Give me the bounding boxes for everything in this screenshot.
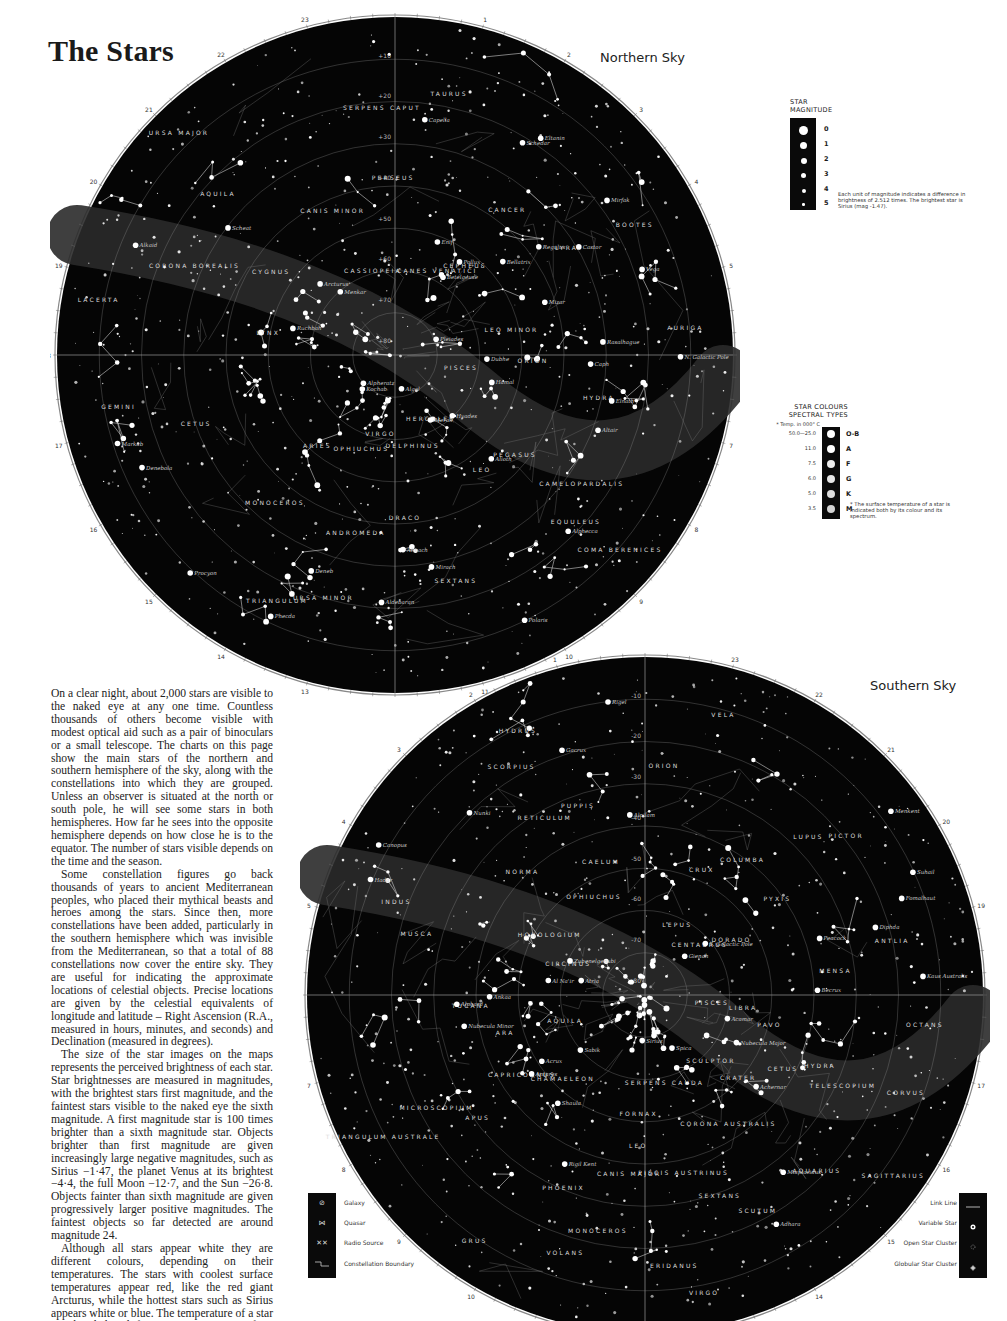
svg-text:PAVO: PAVO bbox=[757, 1021, 781, 1028]
svg-text:5: 5 bbox=[307, 902, 311, 909]
svg-text:+20: +20 bbox=[378, 92, 391, 99]
svg-text:HYDRUS: HYDRUS bbox=[499, 727, 537, 734]
variable-star-icon bbox=[965, 1218, 981, 1228]
svg-text:Menkent: Menkent bbox=[894, 808, 921, 814]
svg-text:18: 18 bbox=[50, 352, 51, 359]
svg-text:Denebola: Denebola bbox=[145, 465, 172, 471]
svg-text:14: 14 bbox=[217, 653, 225, 660]
svg-text:CAELUM: CAELUM bbox=[582, 858, 620, 865]
svg-text:Gacrux: Gacrux bbox=[566, 747, 587, 753]
svg-text:SERPENS CAUDA: SERPENS CAUDA bbox=[625, 1079, 704, 1086]
svg-text:VIRGO: VIRGO bbox=[689, 1289, 719, 1296]
svg-text:Pollux: Pollux bbox=[463, 259, 482, 265]
svg-text:23: 23 bbox=[301, 16, 309, 23]
svg-text:Alioth: Alioth bbox=[494, 456, 512, 462]
star-magnitude-legend: STAR MAGNITUDE 0 1 2 3 4 5 Each unit of … bbox=[790, 98, 832, 114]
svg-text:TELESCOPIUM: TELESCOPIUM bbox=[809, 1082, 876, 1089]
spectral-row: 6.0G bbox=[760, 475, 860, 487]
svg-text:Deneb: Deneb bbox=[314, 568, 333, 574]
svg-text:PICTOR: PICTOR bbox=[828, 832, 863, 839]
svg-text:Al Na'ir: Al Na'ir bbox=[551, 978, 574, 984]
svg-text:ARIES: ARIES bbox=[303, 442, 332, 449]
svg-text:Alphecca: Alphecca bbox=[571, 528, 598, 535]
svg-text:22: 22 bbox=[815, 691, 823, 698]
svg-text:Pleiades: Pleiades bbox=[439, 336, 464, 342]
svg-text:Menkar: Menkar bbox=[343, 289, 366, 295]
svg-text:FORNAX: FORNAX bbox=[619, 1110, 657, 1117]
svg-text:CORONA BOREALIS: CORONA BOREALIS bbox=[149, 262, 240, 269]
svg-text:Spica: Spica bbox=[676, 1045, 691, 1052]
svg-text:Hadar: Hadar bbox=[374, 877, 393, 883]
svg-text:HYDRA: HYDRA bbox=[804, 1062, 836, 1069]
svg-text:17: 17 bbox=[977, 1082, 985, 1089]
svg-text:16: 16 bbox=[90, 526, 98, 533]
spectral-row: 11.0A bbox=[760, 445, 860, 457]
svg-text:LEO: LEO bbox=[473, 466, 491, 473]
svg-text:PERSEUS: PERSEUS bbox=[372, 174, 415, 181]
svg-text:CETUS: CETUS bbox=[181, 420, 212, 427]
legend-item: ⊘ Galaxy bbox=[308, 1198, 448, 1212]
svg-text:18: 18 bbox=[989, 992, 990, 999]
svg-text:LYNX: LYNX bbox=[256, 329, 280, 336]
svg-text:PISCES: PISCES bbox=[695, 999, 729, 1006]
svg-text:SCULPTOR: SCULPTOR bbox=[686, 1057, 736, 1064]
svg-text:ANDROMEDA: ANDROMEDA bbox=[326, 529, 386, 536]
svg-text:INDUS: INDUS bbox=[381, 898, 411, 905]
svg-text:N. Galactic Pole: N. Galactic Pole bbox=[684, 354, 730, 360]
spectral-note: * The surface temperature of a star is i… bbox=[850, 501, 970, 520]
paragraph: Some constellation figures go back thous… bbox=[51, 869, 273, 1050]
svg-text:MICROSCOPIUM: MICROSCOPIUM bbox=[399, 1104, 473, 1111]
svg-text:Canopus: Canopus bbox=[383, 842, 407, 849]
legend-item: Variable Star bbox=[880, 1218, 990, 1232]
svg-text:GRUS: GRUS bbox=[462, 1237, 488, 1244]
svg-text:ORION: ORION bbox=[649, 762, 680, 769]
svg-text:URSA MAJOR: URSA MAJOR bbox=[149, 129, 209, 137]
svg-text:4: 4 bbox=[342, 818, 346, 825]
svg-text:7: 7 bbox=[307, 1082, 311, 1089]
quasar-icon: ⋈ bbox=[314, 1218, 330, 1228]
svg-text:Ankaa: Ankaa bbox=[493, 994, 511, 1000]
southern-sky-title: Southern Sky bbox=[870, 678, 956, 693]
svg-text:ORION: ORION bbox=[517, 357, 548, 364]
svg-text:-10: -10 bbox=[631, 692, 641, 699]
svg-text:BOOTES: BOOTES bbox=[616, 221, 654, 228]
star-dot-icon bbox=[800, 142, 807, 149]
globular-cluster-icon bbox=[965, 1259, 981, 1269]
galaxy-icon: ⊘ bbox=[314, 1198, 330, 1208]
svg-text:14: 14 bbox=[815, 1293, 823, 1300]
star-colour-dot-icon bbox=[827, 430, 835, 438]
svg-text:DELPHINUS: DELPHINUS bbox=[386, 442, 440, 449]
star-dot-icon bbox=[799, 126, 808, 135]
svg-text:SCORPIUS: SCORPIUS bbox=[488, 763, 536, 770]
svg-text:VELA: VELA bbox=[711, 711, 735, 718]
spectral-row: 50.0—25.0O-B bbox=[760, 430, 860, 442]
svg-text:Markab: Markab bbox=[121, 441, 144, 447]
svg-text:LEO: LEO bbox=[629, 1142, 647, 1149]
svg-text:Antares: Antares bbox=[535, 1071, 558, 1077]
svg-text:Alphard: Alphard bbox=[460, 1001, 484, 1008]
svg-text:Regulus: Regulus bbox=[542, 244, 566, 251]
svg-text:23: 23 bbox=[731, 656, 739, 663]
svg-text:Enif: Enif bbox=[440, 239, 453, 246]
svg-text:Eltanin: Eltanin bbox=[544, 135, 566, 141]
svg-text:CORVUS: CORVUS bbox=[887, 1089, 925, 1096]
star-colour-dot-icon bbox=[827, 460, 835, 468]
svg-text:APUS: APUS bbox=[465, 1114, 490, 1121]
svg-text:SERPENS CAPUT: SERPENS CAPUT bbox=[343, 104, 421, 111]
svg-text:Castor: Castor bbox=[583, 244, 602, 250]
svg-text:Acrux: Acrux bbox=[545, 1058, 563, 1064]
star-colour-dot-icon bbox=[827, 505, 835, 513]
magnitude-legend-title: STAR MAGNITUDE bbox=[790, 98, 832, 114]
svg-text:CRUX: CRUX bbox=[689, 866, 715, 873]
svg-text:-30: -30 bbox=[631, 773, 641, 780]
svg-text:Kaus Australis: Kaus Australis bbox=[926, 973, 967, 979]
svg-text:HOROLOGIUM: HOROLOGIUM bbox=[518, 931, 582, 938]
svg-text:21: 21 bbox=[145, 106, 153, 113]
svg-text:MUSCA: MUSCA bbox=[401, 930, 434, 937]
svg-text:SCUTUM: SCUTUM bbox=[738, 1207, 777, 1214]
paragraph: The size of the star images on the maps … bbox=[51, 1049, 273, 1243]
svg-text:-20: -20 bbox=[631, 732, 641, 739]
svg-text:Rigil Kent: Rigil Kent bbox=[568, 1161, 597, 1168]
svg-text:8: 8 bbox=[694, 526, 698, 533]
svg-text:Sirius: Sirius bbox=[646, 1038, 662, 1044]
